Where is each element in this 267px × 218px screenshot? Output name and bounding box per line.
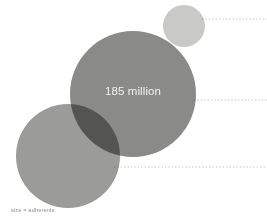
small-bubble[interactable] bbox=[163, 5, 205, 47]
bubble-chart-figure: 185 million size = adherents bbox=[0, 0, 267, 218]
left-bubble[interactable] bbox=[16, 104, 120, 208]
bubble-label-group: 185 million bbox=[105, 85, 161, 97]
large-bubble-value-label: 185 million bbox=[105, 85, 161, 97]
bubble-chart-canvas: 185 million size = adherents bbox=[0, 0, 267, 218]
size-legend-caption: size = adherents bbox=[11, 207, 55, 213]
